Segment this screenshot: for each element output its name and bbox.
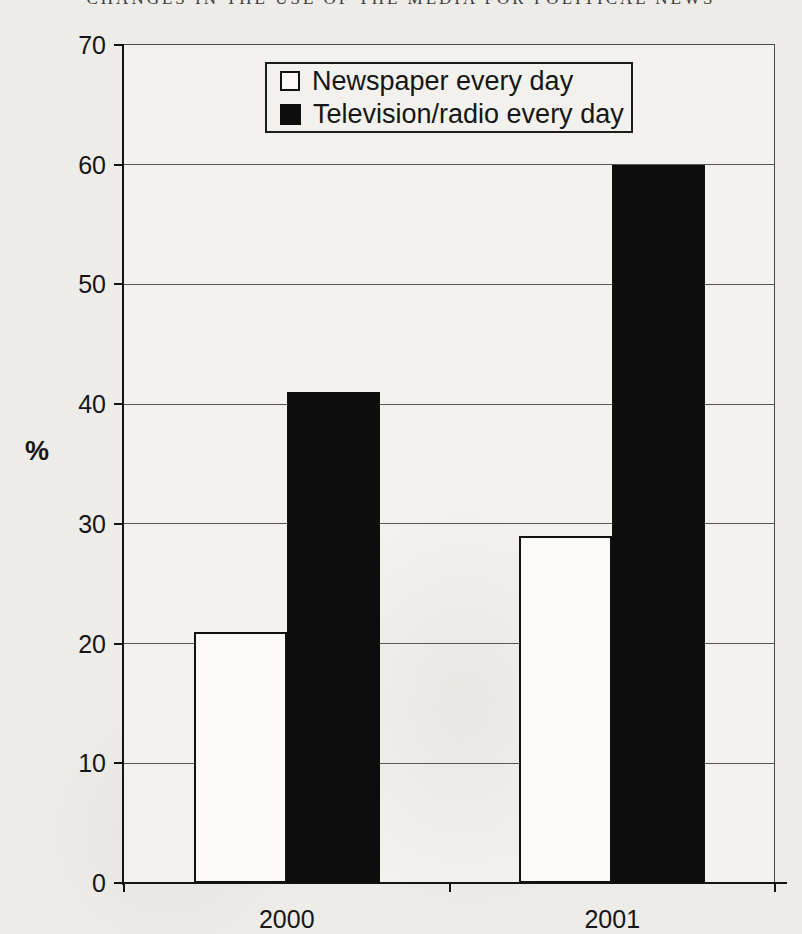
bar-newspaper-every-day-2001 (519, 536, 612, 883)
y-tick-label-40: 40 (30, 389, 106, 419)
y-tick-label-10: 10 (30, 748, 106, 778)
x-category-label-2001: 2001 (542, 905, 682, 933)
plot-border-right (774, 45, 775, 883)
y-tick-40 (114, 403, 124, 405)
y-tick-label-50: 50 (30, 269, 106, 299)
x-tick-0 (123, 883, 125, 892)
bar-newspaper-every-day-2000 (194, 632, 287, 883)
legend-swatch-newspaper (280, 71, 300, 91)
bar-television-radio-every-day-2001 (612, 165, 705, 883)
y-tick-60 (114, 164, 124, 166)
y-tick-10 (114, 762, 124, 764)
y-tick-label-70: 70 (30, 30, 106, 60)
y-tick-label-60: 60 (30, 150, 106, 180)
bar-television-radio-every-day-2000 (287, 392, 380, 883)
y-tick-50 (114, 283, 124, 285)
legend-item-newspaper: Newspaper every day (280, 66, 631, 97)
scanned-page: CHANGES IN THE USE OF THE MEDIA FOR POLI… (0, 0, 802, 934)
legend: Newspaper every day Television/radio eve… (265, 62, 633, 133)
legend-label-newspaper: Newspaper every day (312, 66, 573, 96)
legend-label-tv-radio: Television/radio every day (313, 99, 624, 129)
legend-swatch-tv-radio (280, 104, 301, 125)
plot-border-top (124, 44, 775, 45)
y-tick-label-30: 30 (30, 509, 106, 539)
x-category-label-2000: 2000 (217, 905, 357, 933)
x-tick-2 (774, 883, 776, 892)
y-tick-label-0: 0 (30, 868, 106, 898)
y-tick-30 (114, 523, 124, 525)
page-header-title: CHANGES IN THE USE OF THE MEDIA FOR POLI… (0, 0, 802, 10)
legend-item-tv-radio: Television/radio every day (280, 99, 631, 130)
y-tick-20 (114, 643, 124, 645)
y-axis-line (122, 44, 124, 885)
y-axis-unit-label: % (25, 436, 49, 467)
x-tick-1 (449, 883, 451, 892)
y-tick-label-20: 20 (30, 629, 106, 659)
y-tick-70 (114, 44, 124, 46)
